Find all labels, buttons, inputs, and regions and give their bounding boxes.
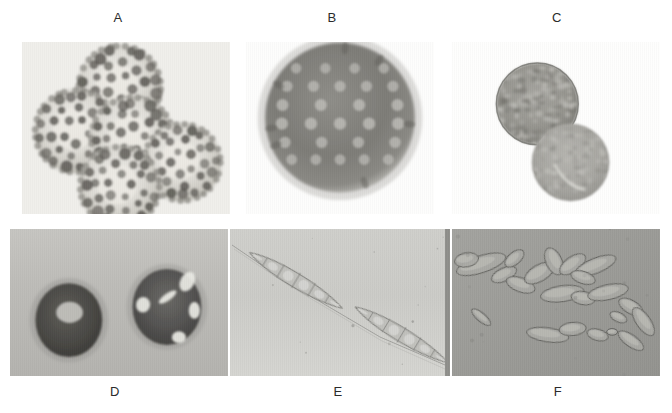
panel-b-micrograph-svg <box>246 42 434 214</box>
panel-label-d: D <box>95 384 135 399</box>
panel-a-micrograph-svg <box>22 42 230 214</box>
panel-f-image <box>452 229 660 376</box>
microscopy-figure-plate: A B <box>0 0 672 413</box>
panel-label-a: A <box>98 10 138 25</box>
panel-e-image <box>230 229 450 376</box>
panel-d-image <box>10 229 228 376</box>
panel-f-micrograph-svg <box>452 229 660 376</box>
panel-label-e: E <box>318 384 358 399</box>
panel-c-image <box>452 42 660 214</box>
panel-label-f: F <box>538 384 578 399</box>
panel-b-image <box>246 42 434 214</box>
panel-label-c: C <box>537 10 577 25</box>
panel-e-micrograph-svg <box>230 229 450 376</box>
panel-c-micrograph-svg <box>452 42 660 214</box>
panel-d-micrograph-svg <box>10 229 228 376</box>
panel-a-image <box>22 42 230 214</box>
panel-label-b: B <box>312 10 352 25</box>
